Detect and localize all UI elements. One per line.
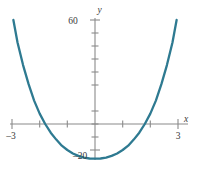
x-right-tick-label: 3	[176, 131, 181, 141]
graph-figure: y x 60 –20 –3 3	[0, 0, 197, 169]
y-bottom-tick-label: –20	[72, 151, 88, 161]
x-axis-label: x	[183, 114, 189, 124]
x-left-tick-label: –3	[5, 131, 16, 141]
y-top-tick-label: 60	[68, 16, 78, 26]
y-axis-label: y	[97, 5, 103, 15]
coordinate-plane-svg: y x 60 –20 –3 3	[0, 0, 197, 169]
